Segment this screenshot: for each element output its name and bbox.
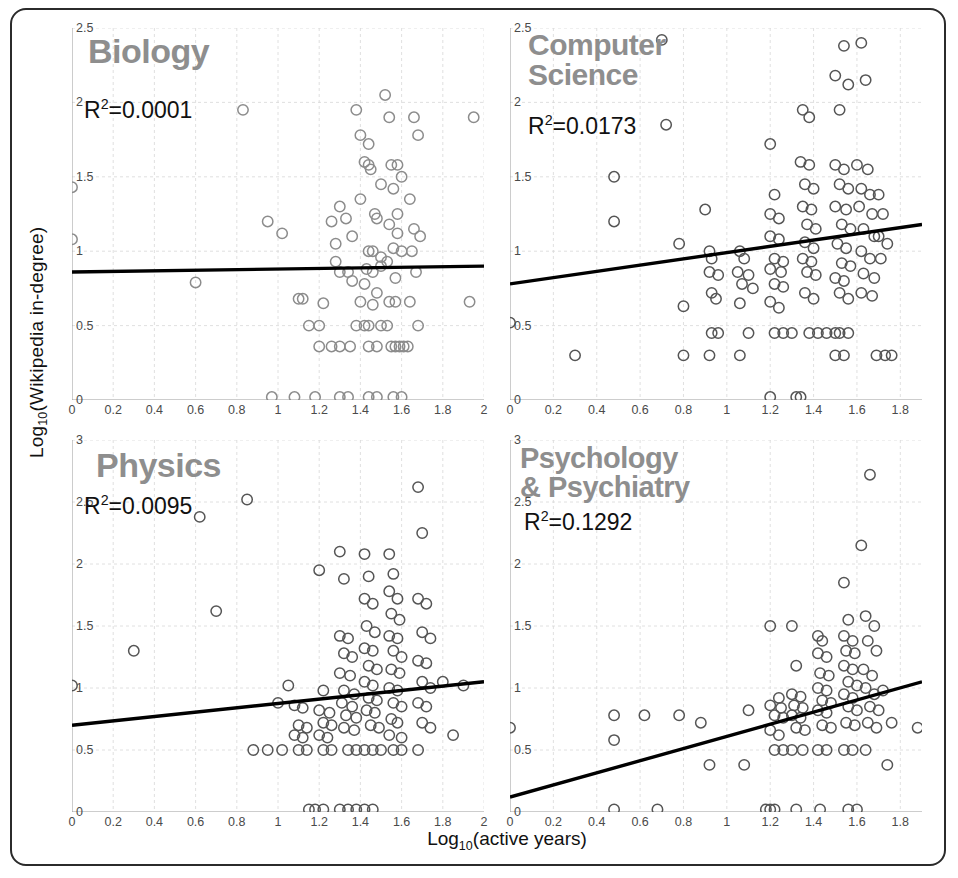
x-tick-label: 1.2 xyxy=(303,403,335,417)
scatter-point xyxy=(696,718,706,728)
scatter-point xyxy=(318,685,328,695)
x-tick-label: 1.4 xyxy=(344,815,376,829)
scatter-point xyxy=(843,79,853,89)
scatter-point xyxy=(867,670,877,680)
y-axis-label-suffix: (Wikipedia in-degree) xyxy=(26,227,47,412)
scatter-point xyxy=(856,540,866,550)
scatter-point xyxy=(674,710,684,720)
scatter-point xyxy=(392,228,402,238)
r-squared-exponent: 2 xyxy=(541,508,549,524)
scatter-point xyxy=(743,328,753,338)
x-tick-label: 1.4 xyxy=(798,403,830,417)
scatter-point xyxy=(609,735,619,745)
scatter-point xyxy=(912,722,922,732)
scatter-point xyxy=(392,594,402,604)
x-tick-label: 1 xyxy=(262,403,294,417)
x-axis-label-prefix: Log xyxy=(427,828,459,849)
r-squared-annotation: R2=0.1292 xyxy=(524,508,632,536)
scatter-point xyxy=(886,350,896,360)
scatter-point xyxy=(417,528,427,538)
panel-title: Physics xyxy=(96,448,221,482)
scatter-point xyxy=(388,569,398,579)
r-squared-value: =0.0173 xyxy=(553,113,637,139)
scatter-point xyxy=(283,680,293,690)
x-tick-label: 0.2 xyxy=(97,403,129,417)
x-tick-label: 0 xyxy=(56,815,88,829)
scatter-point xyxy=(405,194,415,204)
y-tick-label: 2 xyxy=(514,95,521,109)
x-axis-label: Log10(active years) xyxy=(0,828,958,853)
scatter-point xyxy=(277,228,287,238)
x-tick-label: 1.4 xyxy=(344,403,376,417)
scatter-point xyxy=(318,298,328,308)
scatter-point xyxy=(639,710,649,720)
scatter-point xyxy=(739,760,749,770)
y-axis-label-subscript: 10 xyxy=(36,411,50,425)
scatter-point xyxy=(839,577,849,587)
regression-line xyxy=(510,682,922,797)
scatter-point xyxy=(394,615,404,625)
x-tick-label: 0.6 xyxy=(180,815,212,829)
scatter-point xyxy=(652,804,662,812)
scatter-point xyxy=(384,219,394,229)
y-tick-label: 1.5 xyxy=(76,170,93,184)
r-squared-symbol: R xyxy=(528,113,545,139)
x-tick-label: 0.8 xyxy=(667,815,699,829)
scatter-point xyxy=(830,201,840,211)
y-tick-label: 1 xyxy=(76,244,83,258)
y-tick-label: 2 xyxy=(76,557,83,571)
x-tick-label: 1.2 xyxy=(303,815,335,829)
scatter-point xyxy=(339,685,349,695)
scatter-point xyxy=(347,231,357,241)
scatter-point xyxy=(510,722,515,732)
scatter-point xyxy=(843,294,853,304)
y-axis-label: Log10(Wikipedia in-degree) xyxy=(26,192,51,492)
scatter-point xyxy=(863,636,873,646)
y-tick-label: 0.5 xyxy=(514,319,531,333)
scatter-point xyxy=(700,204,710,214)
scatter-point xyxy=(839,164,849,174)
scatter-point xyxy=(384,586,394,596)
scatter-point xyxy=(372,288,382,298)
scatter-point xyxy=(335,668,345,678)
scatter-point xyxy=(368,300,378,310)
scatter-point xyxy=(834,105,844,115)
scatter-point xyxy=(351,713,361,723)
r-squared-annotation: R2=0.0095 xyxy=(84,492,192,520)
x-tick-label: 0.2 xyxy=(537,403,569,417)
scatter-point xyxy=(821,652,831,662)
scatter-point xyxy=(345,341,355,351)
x-tick-label: 0.4 xyxy=(581,403,613,417)
scatter-point xyxy=(425,633,435,643)
scatter-point xyxy=(326,216,336,226)
x-tick-label: 0.4 xyxy=(581,815,613,829)
scatter-point xyxy=(791,660,801,670)
regression-line xyxy=(72,266,484,272)
y-tick-label: 0 xyxy=(76,393,83,407)
scatter-point xyxy=(392,209,402,219)
scatter-point xyxy=(345,670,355,680)
scatter-point xyxy=(858,268,868,278)
scatter-point xyxy=(863,164,873,174)
scatter-point xyxy=(341,710,351,720)
scatter-point xyxy=(337,698,347,708)
scatter-point xyxy=(384,297,394,307)
scatter-point xyxy=(735,350,745,360)
scatter-point xyxy=(743,705,753,715)
panel-title: Psychology & Psychiatry xyxy=(520,444,690,502)
y-axis-label-prefix: Log xyxy=(26,426,47,458)
scatter-point xyxy=(871,722,881,732)
y-tick-label: 0.5 xyxy=(514,743,531,757)
scatter-point xyxy=(392,160,402,170)
panel-title: Computer Science xyxy=(528,30,666,90)
scatter-point xyxy=(843,184,853,194)
scatter-point xyxy=(349,725,359,735)
x-tick-label: 1 xyxy=(711,403,743,417)
x-tick-label: 0.6 xyxy=(624,403,656,417)
scatter-point xyxy=(335,201,345,211)
r-squared-symbol: R xyxy=(84,493,101,519)
scatter-point xyxy=(854,201,864,211)
scatter-point xyxy=(380,90,390,100)
scatter-point xyxy=(359,549,369,559)
scatter-point xyxy=(413,130,423,140)
